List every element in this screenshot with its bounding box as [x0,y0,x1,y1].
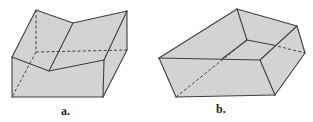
polyhedra-diagram: a. b. [0,0,313,122]
figure-b-label: b. [216,102,226,116]
figure-b: b. [159,9,305,116]
figure-a-label: a. [61,104,70,118]
figure-a: a. [12,10,127,118]
